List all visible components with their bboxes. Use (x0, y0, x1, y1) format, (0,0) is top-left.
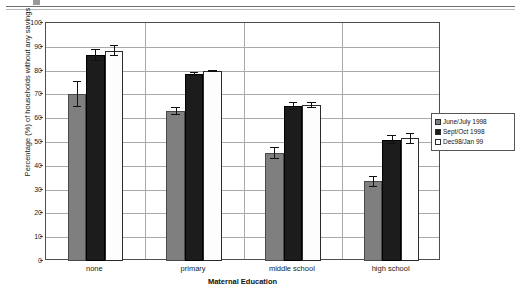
category-separator (244, 23, 245, 259)
x-tick-label: primary (144, 264, 243, 273)
bar (86, 55, 104, 261)
error-bar-cap-top (406, 133, 414, 134)
error-bar (73, 81, 81, 107)
legend-item[interactable]: Dec98/Jan 99 (434, 137, 512, 147)
error-bar (289, 102, 297, 110)
error-bar-cap-bottom (190, 75, 198, 76)
legend-label: Sept/Oct 1998 (443, 128, 485, 136)
error-bar (387, 135, 395, 145)
error-bar-cap-bottom (171, 114, 179, 115)
page-rule-top-secondary (6, 9, 515, 10)
error-bar-cap-bottom (406, 143, 414, 144)
error-bar-cap-bottom (208, 71, 216, 72)
legend-swatch (435, 129, 441, 135)
legend-label: Dec98/Jan 99 (443, 138, 483, 146)
category-separator (145, 23, 146, 259)
error-bar (369, 176, 377, 187)
bar (284, 106, 302, 261)
y-tick-label: 0 (16, 257, 42, 264)
scan-artifact (33, 0, 40, 5)
error-bar (307, 102, 315, 109)
error-bar (190, 72, 198, 76)
category-separator (342, 23, 343, 259)
error-bar (110, 45, 118, 56)
bar (401, 138, 419, 261)
error-bar-cap-bottom (289, 109, 297, 110)
error-bar-cap-bottom (369, 186, 377, 187)
gridline (46, 47, 439, 48)
error-bar-cap-top (289, 102, 297, 103)
plot-area (45, 22, 440, 260)
error-bar-cap-top (73, 81, 81, 82)
x-tick-label: none (45, 264, 144, 273)
error-bar (208, 70, 216, 73)
x-axis-tick-labels: noneprimarymiddle schoolhigh school (45, 264, 440, 276)
error-bar-cap-bottom (73, 106, 81, 107)
error-bar-cap-top (91, 49, 99, 50)
legend-swatch (435, 119, 441, 125)
y-tick-label: 10 (16, 233, 42, 240)
error-bar (171, 107, 179, 115)
error-bar-cap-top (369, 176, 377, 177)
error-bar-cap-top (110, 45, 118, 46)
bar (364, 181, 382, 261)
error-bar (270, 147, 278, 159)
x-tick-label: high school (341, 264, 440, 273)
error-bar-cap-bottom (91, 60, 99, 61)
legend-item[interactable]: June/July 1998 (434, 117, 512, 127)
error-bar-cap-bottom (110, 55, 118, 56)
error-bar-cap-top (208, 70, 216, 71)
error-bar-cap-top (171, 107, 179, 108)
error-bar-cap-top (270, 147, 278, 148)
legend-item[interactable]: Sept/Oct 1998 (434, 127, 512, 137)
error-bar (406, 133, 414, 143)
bar (203, 71, 221, 261)
y-tick-label: 20 (16, 209, 42, 216)
x-tick-label: middle school (243, 264, 342, 273)
bar (105, 51, 123, 261)
bar (302, 105, 320, 261)
error-bar (91, 49, 99, 61)
legend-label: June/July 1998 (443, 118, 487, 126)
error-bar-cap-top (190, 72, 198, 73)
x-axis-title: Maternal Education (45, 277, 440, 286)
error-bar-cap-bottom (307, 107, 315, 108)
bar (185, 74, 203, 261)
error-bar-stem (77, 81, 78, 107)
bar (265, 153, 283, 261)
error-bar-cap-bottom (270, 158, 278, 159)
error-bar-cap-top (387, 135, 395, 136)
bar-chart-figure: 0102030405060708090100 Percentage (%) of… (0, 0, 521, 293)
error-bar-cap-top (307, 102, 315, 103)
error-bar-cap-bottom (387, 143, 395, 144)
y-axis-title: Percentage (%) of households without any… (24, 0, 32, 192)
legend-swatch (435, 139, 441, 145)
chart-legend: June/July 1998Sept/Oct 1998Dec98/Jan 99 (431, 113, 515, 151)
bar (166, 111, 184, 261)
bar (382, 140, 400, 261)
page-rule-top (6, 6, 515, 7)
bar (68, 94, 86, 261)
